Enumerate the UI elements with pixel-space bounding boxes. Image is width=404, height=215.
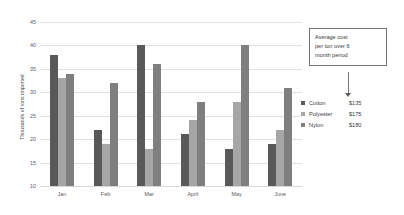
bar xyxy=(225,149,233,186)
bar xyxy=(276,130,284,186)
legend-series-name: Cotton xyxy=(309,100,349,106)
x-axis-tick-label: Feb xyxy=(84,191,128,197)
legend-series-name: Polyester xyxy=(309,111,349,117)
bar xyxy=(241,45,249,186)
bar xyxy=(181,134,189,186)
bar xyxy=(110,83,118,186)
x-axis-tick-label: Jan xyxy=(40,191,84,197)
legend: Cotton$135Polyester$175Nylon$180 xyxy=(301,97,361,130)
callout-line-1: Average cost xyxy=(315,33,381,42)
legend-item: Nylon$180 xyxy=(301,119,361,130)
bar xyxy=(50,55,58,186)
bar-groups: JanFebMarAprilMayJune xyxy=(40,22,302,186)
bar xyxy=(189,120,197,186)
y-axis-tick-label: 30 xyxy=(30,89,36,95)
bar xyxy=(94,130,102,186)
legend-series-price: $175 xyxy=(349,111,361,117)
y-axis-tick-label: 25 xyxy=(30,113,36,119)
y-axis-tick-label: 35 xyxy=(30,66,36,72)
x-axis-tick-label: April xyxy=(171,191,215,197)
bar xyxy=(153,64,161,186)
x-axis-tick-label: June xyxy=(258,191,302,197)
y-axis-tick-label: 10 xyxy=(30,183,36,189)
bar xyxy=(197,102,205,186)
legend-item: Polyester$175 xyxy=(301,108,361,119)
bar-chart-figure: Thousands of tons imported 1015202530354… xyxy=(0,0,404,215)
legend-series-name: Nylon xyxy=(309,122,349,128)
bar-group: Feb xyxy=(84,22,128,186)
gridline xyxy=(40,186,302,187)
bar xyxy=(102,144,110,186)
y-axis-tick-label: 15 xyxy=(30,160,36,166)
bar-group: April xyxy=(171,22,215,186)
bar xyxy=(284,88,292,186)
bar-group: May xyxy=(215,22,259,186)
bar xyxy=(58,78,66,186)
plot-area: 1015202530354045 JanFebMarAprilMayJune xyxy=(40,22,302,186)
x-axis-tick-label: May xyxy=(215,191,259,197)
bar xyxy=(145,149,153,186)
x-axis-tick-label: Mar xyxy=(127,191,171,197)
legend-swatch-icon xyxy=(301,123,305,127)
bar xyxy=(233,102,241,186)
bar-group: June xyxy=(258,22,302,186)
y-axis-tick-label: 20 xyxy=(30,136,36,142)
legend-series-price: $135 xyxy=(349,100,361,106)
legend-swatch-icon xyxy=(301,101,305,105)
legend-item: Cotton$135 xyxy=(301,97,361,108)
y-axis-tick-label: 45 xyxy=(30,19,36,25)
y-axis-tick-label: 40 xyxy=(30,42,36,48)
callout-box: Average cost per ton over 6 month period xyxy=(309,28,387,66)
y-axis-title: Thousands of tons imported xyxy=(19,47,25,167)
legend-swatch-icon xyxy=(301,112,305,116)
callout-line-3: month period xyxy=(315,51,381,60)
bar-group: Jan xyxy=(40,22,84,186)
bar xyxy=(268,144,276,186)
bar xyxy=(137,45,145,186)
bar xyxy=(66,74,74,186)
legend-series-price: $180 xyxy=(349,122,361,128)
callout-line-2: per ton over 6 xyxy=(315,42,381,51)
bar-group: Mar xyxy=(127,22,171,186)
